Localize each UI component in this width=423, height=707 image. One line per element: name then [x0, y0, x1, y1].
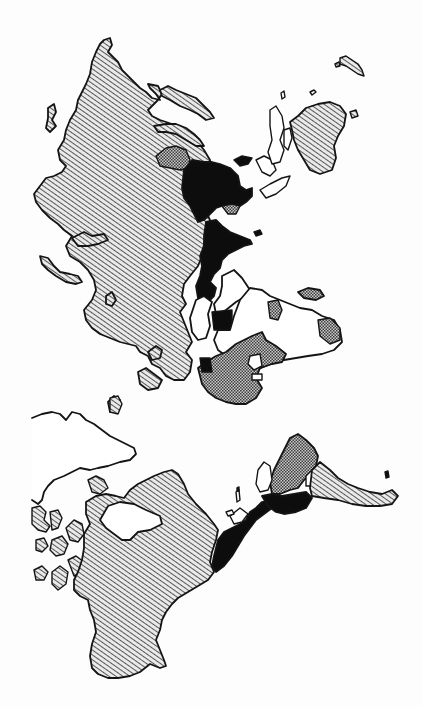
eastern-hemisphere [34, 38, 364, 412]
region-island-black [254, 230, 262, 236]
world-map [0, 0, 423, 707]
region-island-dot-2 [310, 90, 316, 95]
region-island-dot-1 [281, 91, 285, 99]
region-arctic-island-2 [50, 510, 62, 530]
region-sa-south-hatch [310, 462, 398, 506]
region-greenland [32, 412, 136, 504]
region-falkland-like [385, 471, 389, 478]
region-small-island-cluster [234, 156, 252, 166]
map-canvas [0, 0, 423, 707]
region-africa-cross-1 [268, 300, 282, 320]
region-arctic-island-9 [88, 476, 108, 494]
region-arctic-island-7 [66, 520, 84, 542]
region-caribbean-1 [236, 490, 240, 502]
region-north-america [74, 470, 218, 678]
region-arctic-island-4 [50, 536, 68, 556]
region-scandinavia [46, 104, 56, 132]
region-eurasia [34, 38, 212, 380]
region-australia [290, 102, 346, 174]
region-black-rect [212, 310, 232, 330]
region-new-zealand [340, 56, 364, 76]
western-hemisphere [32, 396, 398, 678]
region-africa-south-white-hole-2 [252, 374, 262, 380]
region-arctic-peninsula [160, 86, 214, 120]
region-tasmania-like [350, 110, 358, 118]
region-sa-white-north [256, 462, 272, 492]
region-east-asia-black [182, 160, 252, 222]
region-sea-islands-4 [284, 128, 292, 150]
region-iceland-like [110, 396, 122, 414]
region-sea-islands-2 [268, 106, 284, 164]
region-caribbean-2 [237, 487, 239, 491]
region-nz-small [335, 62, 340, 67]
region-korea-patch [222, 204, 240, 214]
region-africa-black-small [200, 358, 212, 372]
region-madagascar [298, 288, 324, 300]
region-arctic-island-3 [36, 538, 48, 552]
region-africa-nw-white [190, 296, 212, 340]
region-arctic-island-1 [32, 506, 50, 532]
region-arctic-island-5 [34, 566, 48, 580]
region-sw-lobe [138, 368, 162, 390]
region-caribbean-3 [226, 510, 234, 516]
region-sea-islands-3 [260, 176, 290, 198]
region-arctic-island-6 [52, 566, 68, 590]
